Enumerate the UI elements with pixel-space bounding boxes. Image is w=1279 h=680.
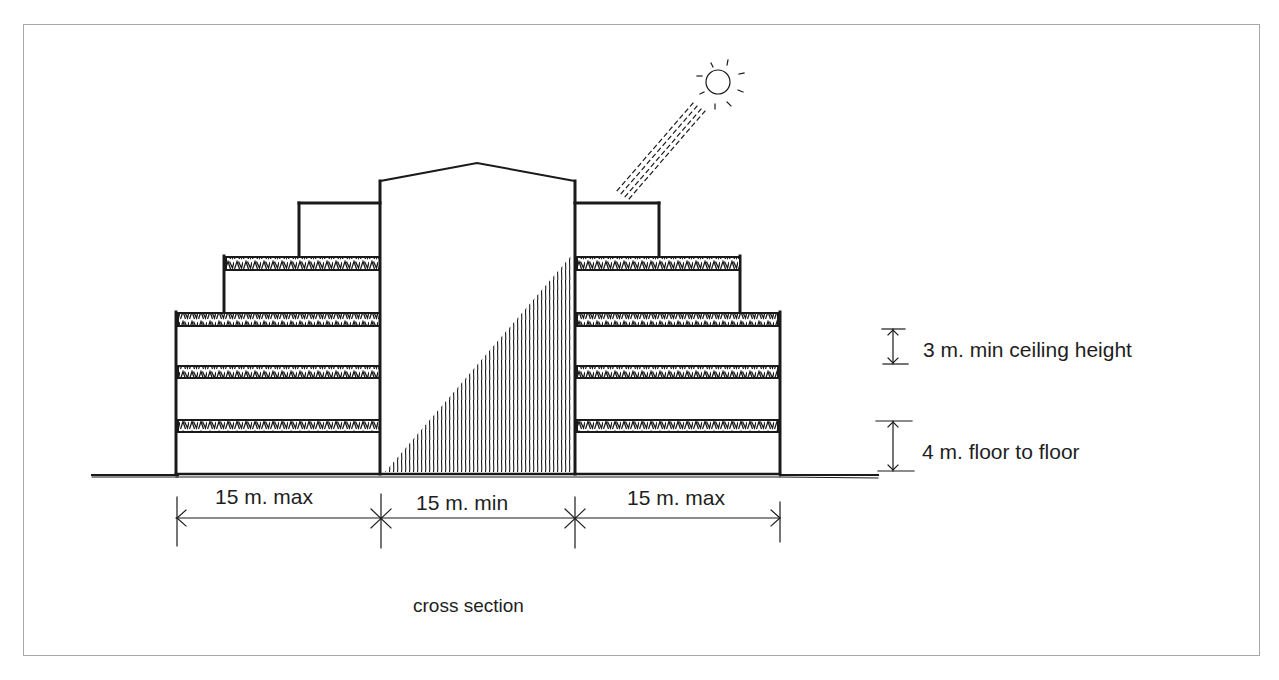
floor-slab	[577, 257, 740, 270]
right-wing	[575, 203, 780, 474]
ceiling-height-label: 3 m. min ceiling height	[923, 339, 1132, 360]
floor-to-floor-dimension	[876, 421, 914, 471]
floor-to-floor-label: 4 m. floor to floor	[922, 441, 1080, 462]
right-wing-width-label: 15 m. max	[627, 487, 725, 508]
floor-slab	[577, 366, 778, 378]
diagram-canvas: 15 m. max 15 m. min 15 m. max 3 m. min c…	[0, 0, 1279, 680]
ceiling-height-dimension	[882, 329, 908, 364]
left-wing	[176, 203, 380, 474]
floor-slab	[178, 420, 380, 432]
floor-slab	[577, 313, 778, 326]
center-width-label: 15 m. min	[416, 492, 508, 513]
sunlight-rays	[616, 103, 705, 199]
ground-line	[92, 474, 878, 478]
floor-slab	[226, 257, 380, 270]
floor-slab	[178, 366, 380, 378]
left-wing-width-label: 15 m. max	[215, 486, 313, 507]
sun-icon	[697, 60, 744, 109]
diagram-caption: cross section	[413, 596, 524, 615]
central-atrium-tower	[380, 163, 575, 474]
hatched-shadow	[385, 250, 571, 474]
floor-slab	[577, 420, 778, 432]
floor-slab	[178, 313, 380, 326]
